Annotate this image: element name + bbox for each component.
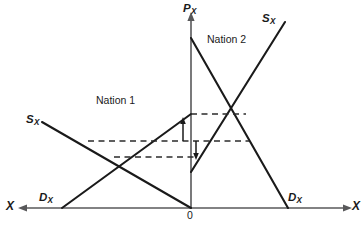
nation-1-supply-curve [42,122,191,208]
nation-2-demand-curve [191,38,288,208]
horizontal-axis-label-right: X [352,200,360,212]
origin-label: 0 [187,210,193,221]
horizontal-axis-right-arrowhead [343,204,352,211]
nation-2-title: Nation 2 [207,34,246,45]
nation-1-title: Nation 1 [96,95,135,106]
trade-equilibrium-figure: PX X X 0 Nation 1 Nation 2 SX DX SX DX [0,0,363,228]
shift-arrow-group [180,117,199,160]
nation-1-supply-label: SX [26,114,39,126]
nation-2-supply-label: SX [262,13,275,25]
horizontal-axis-label-left: X [6,200,14,212]
nation-1-curves [42,114,191,208]
vertical-axis-label: PX [183,3,196,15]
horizontal-axis-left-arrowhead [18,204,27,211]
nation-1-demand-curve [62,114,191,208]
figure-canvas [0,0,363,228]
nation-2-demand-label: DX [288,192,302,204]
reference-lines [88,114,249,157]
nation-1-demand-label: DX [39,192,53,204]
nation-2-curves [191,22,288,208]
axis-group [18,12,352,212]
